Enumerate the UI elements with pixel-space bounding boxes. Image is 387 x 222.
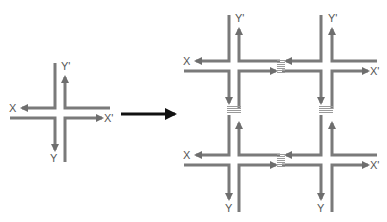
connector-top (277, 59, 285, 73)
connector-left (227, 106, 241, 114)
diagram-canvas: X X' Y' Y X Y' Y' X' (0, 0, 387, 222)
label-y: Y (317, 202, 325, 214)
label-y: Y (225, 202, 233, 214)
label-y-prime: Y' (235, 12, 244, 24)
label-y-prime: Y' (328, 12, 337, 24)
junction-top-left: X Y' (183, 12, 280, 109)
label-y: Y (50, 152, 58, 164)
connector-bottom (277, 153, 285, 167)
junction-grid: X Y' Y' X' X Y Y X' (183, 12, 379, 214)
connector-right (319, 106, 333, 114)
single-junction: X X' Y' Y (9, 60, 113, 164)
label-x: X (183, 55, 191, 67)
junction-bottom-right: Y X' (282, 115, 379, 214)
x-prime-outgoing-line (65, 118, 102, 162)
junction-top-right: Y' X' (282, 12, 379, 109)
label-x: X (183, 149, 191, 161)
label-x-prime: X' (104, 112, 113, 124)
x-outgoing-line (22, 63, 55, 108)
junction-bottom-left: X Y (183, 115, 280, 214)
label-x-prime: X' (370, 65, 379, 77)
y-outgoing-line (10, 118, 55, 150)
y-prime-outgoing-line (65, 77, 110, 108)
label-y-prime: Y' (61, 60, 70, 72)
label-x-prime: X' (370, 159, 379, 171)
label-x: X (9, 102, 17, 114)
